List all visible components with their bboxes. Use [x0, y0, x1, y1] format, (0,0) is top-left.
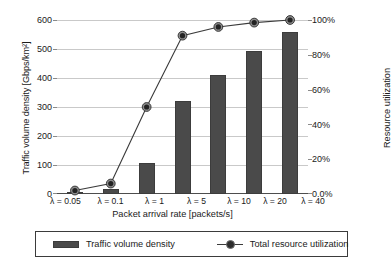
- bar-swatch-icon: [53, 241, 79, 248]
- y-tick-right-40: 40%: [312, 121, 352, 130]
- y-tick-left-300: 300: [18, 103, 52, 112]
- y-tick-right-60: 60%: [312, 86, 352, 95]
- tickmark-right-20: [308, 159, 312, 160]
- line-marker-2: [144, 104, 149, 109]
- y-tick-left-600: 600: [18, 16, 52, 25]
- legend-label-traffic-volume-density: Traffic volume density: [86, 239, 175, 249]
- line-marker-3: [180, 33, 185, 38]
- legend-label-total-resource-utilization: Total resource utilization: [250, 239, 349, 249]
- x-tick-6: λ = 40: [283, 196, 343, 206]
- y-tick-left-400: 400: [18, 74, 52, 83]
- y-axis-right-title: Resource utilization: [382, 13, 392, 203]
- tickmark-right-100: [308, 20, 312, 21]
- tickmark-right-80: [308, 55, 312, 56]
- y-tick-left-200: 200: [18, 132, 52, 141]
- legend-item-traffic-volume-density: Traffic volume density: [53, 239, 175, 249]
- y-tick-left-500: 500: [18, 45, 52, 54]
- line-marker-6: [287, 17, 292, 22]
- line-marker-4: [216, 24, 221, 29]
- resource-utilization-line: [75, 20, 290, 191]
- x-axis-title: Packet arrival rate [packets/s]: [40, 209, 305, 219]
- y-tick-right-100: 100%: [312, 16, 352, 25]
- line-series: [57, 20, 308, 194]
- chart-legend: Traffic volume density Total resource ut…: [35, 231, 348, 257]
- tickmark-right-0: [308, 193, 312, 194]
- legend-item-total-resource-utilization: Total resource utilization: [217, 239, 349, 249]
- y-tick-right-80: 80%: [312, 51, 352, 60]
- y-tick-right-20: 20%: [312, 155, 352, 164]
- line-marker-0: [72, 188, 77, 193]
- line-marker-icon: [217, 240, 243, 249]
- line-marker-1: [108, 181, 113, 186]
- tickmark-right-40: [308, 124, 312, 125]
- line-marker-5: [252, 20, 257, 25]
- y-tick-left-100: 100: [18, 161, 52, 170]
- tickmark-right-60: [308, 90, 312, 91]
- plot-area: [57, 20, 308, 194]
